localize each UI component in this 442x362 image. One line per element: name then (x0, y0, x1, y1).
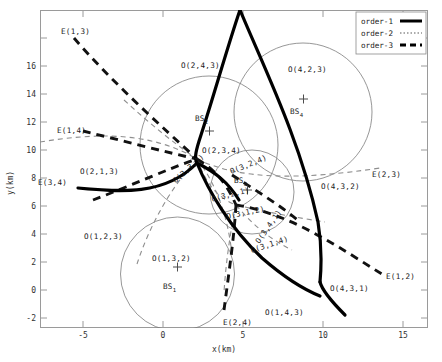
bs-label-index: 4 (300, 112, 304, 118)
y-tick-label: 6 (14, 202, 36, 211)
legend-label-order-1: order-1 (361, 17, 393, 26)
x-tick-label: -5 (78, 331, 88, 340)
bs-label-4: BS4 (290, 107, 303, 118)
bs-marker-1 (173, 263, 182, 272)
edge-label: E(3,4) (38, 178, 67, 187)
region-label: O(1,4,3) (265, 308, 304, 317)
order2-arc-a (40, 136, 197, 159)
order2-arc-b (197, 159, 380, 176)
coverage-circle-bs2 (140, 76, 278, 214)
x-tick-label: 0 (161, 331, 166, 340)
region-label: O(1,2,3) (84, 232, 123, 241)
bs-label-text: BS (290, 107, 300, 116)
y-tick-label: 0 (14, 286, 36, 295)
region-label: O(1,3,2) (152, 254, 191, 263)
bs-label-1: BS1 (163, 282, 176, 293)
bs-label-index: 2 (205, 119, 209, 125)
x-tick-label: 15 (398, 331, 408, 340)
ray-tracing-figure: order-1 order-2 order-3 -5 0 5 10 15 -2 … (0, 0, 442, 362)
y-tick-label: 10 (14, 146, 36, 155)
bs-marker-2 (205, 127, 214, 136)
y-tick-label: 4 (14, 230, 36, 239)
order3-branch-left (83, 131, 197, 159)
bs-label-text: BS (195, 114, 205, 123)
coverage-circle-bs1 (121, 217, 235, 331)
edge-label: E(1,4) (57, 126, 86, 135)
y-tick-label: 16 (14, 62, 36, 71)
bs-label-2: BS2 (195, 114, 208, 125)
x-axis-label: x(km) (212, 345, 236, 354)
y-tick-label: -2 (14, 314, 36, 323)
region-label: O(4,3,1) (330, 284, 369, 293)
y-tick-label: 8 (14, 174, 36, 183)
y-tick-label: 12 (14, 118, 36, 127)
y-axis-label: y(km) (6, 171, 15, 195)
bs-label-3: BS3 (234, 176, 247, 187)
edge-label: E(1,2) (386, 272, 415, 281)
order1-boundaries (78, 10, 345, 315)
x-tick-label: 10 (318, 331, 328, 340)
order1-top-curve (196, 10, 240, 163)
region-label: O(2,1,3) (80, 167, 119, 176)
order1-lower-left-arc (197, 163, 320, 296)
bs-label-text: BS (163, 282, 173, 291)
region-label: O(4,3,2) (321, 182, 360, 191)
order3-branch-upper-left (74, 38, 197, 159)
y-tick-label: 2 (14, 258, 36, 267)
y-tick-label: 14 (14, 90, 36, 99)
region-label: O(4,2,3) (288, 65, 327, 74)
x-tick-label: 5 (241, 331, 246, 340)
edge-label: E(2,3) (372, 170, 401, 179)
edge-label: E(2,4) (223, 318, 252, 327)
bs-label-index: 3 (244, 181, 248, 187)
region-label: O(2,4,3) (181, 61, 220, 70)
bs-marker-4 (299, 95, 308, 104)
region-label: O(2,3,4) (202, 146, 241, 155)
bs-label-index: 1 (173, 287, 177, 293)
edge-label: E(1,3) (61, 27, 90, 36)
legend-label-order-2: order-2 (361, 29, 393, 38)
bs-label-text: BS (234, 176, 244, 185)
legend-label-order-3: order-3 (361, 41, 393, 50)
